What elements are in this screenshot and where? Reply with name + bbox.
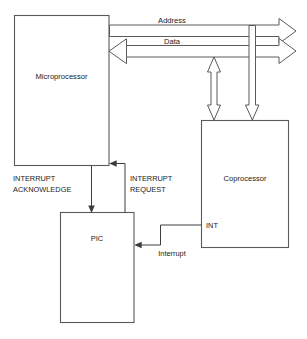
block-diagram: Microprocessor Coprocessor PIC Address D… <box>0 0 307 339</box>
diagram-canvas: Microprocessor Coprocessor PIC Address D… <box>0 0 307 339</box>
data-bus-left-arrowhead <box>109 39 127 64</box>
microprocessor-box[interactable] <box>15 16 110 166</box>
address-bus-vertical-down-arrow <box>246 26 260 121</box>
pic-box[interactable] <box>61 213 135 323</box>
coprocessor-label: Coprocessor <box>223 174 267 183</box>
address-bus-arrow <box>110 19 297 44</box>
interrupt-request-arrowhead <box>109 160 117 167</box>
data-bus-vertical-double-arrow <box>208 57 221 120</box>
interrupt-request-line <box>116 164 125 213</box>
data-bus-label: Data <box>164 37 181 46</box>
interrupt-line <box>141 225 202 245</box>
address-bus-label: Address <box>158 16 186 25</box>
interrupt-acknowledge-label-line2: ACKNOWLEDGE <box>13 185 71 194</box>
interrupt-line-label: Interrupt <box>158 249 186 258</box>
interrupt-request-label-line1: INTERRUPT <box>130 174 173 183</box>
pic-label: PIC <box>91 234 104 243</box>
interrupt-line-arrowhead <box>134 242 142 249</box>
interrupt-acknowledge-arrowhead <box>88 206 95 214</box>
coprocessor-int-pin-label: INT <box>206 221 218 230</box>
interrupt-acknowledge-label-line1: INTERRUPT <box>13 174 56 183</box>
data-bus-arrow <box>126 39 296 64</box>
microprocessor-label: Microprocessor <box>36 72 88 81</box>
interrupt-request-label-line2: REQUEST <box>130 185 166 194</box>
